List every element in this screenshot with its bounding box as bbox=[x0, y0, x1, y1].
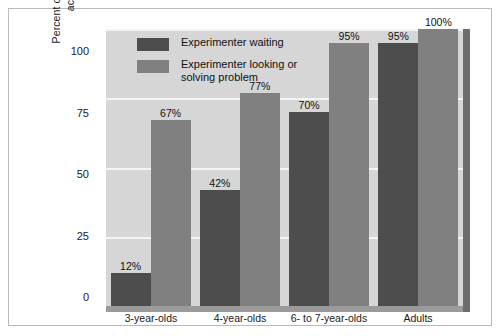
y-tick-label-75: 75 bbox=[61, 108, 89, 119]
legend-swatch-icon-series-0 bbox=[137, 38, 169, 51]
x-tick-label-3-year-olds: 3-year-olds bbox=[106, 312, 196, 324]
bar-value-label-4-year-olds-waiting: 42% bbox=[200, 178, 240, 189]
bar-value-label-adults-looking: 100% bbox=[418, 17, 458, 28]
plot-surface: 12% 67% 42% 77% 70% 95% 95% 100% Experim… bbox=[106, 29, 463, 306]
legend-swatch-icon-series-1 bbox=[137, 60, 169, 73]
bar-value-label-6-to-7-year-olds-waiting: 70% bbox=[289, 100, 329, 111]
legend-label-series-0: Experimenter waiting bbox=[181, 36, 284, 49]
y-axis-title-line2: activity to experimenter bbox=[63, 0, 77, 71]
y-axis-title: Percent of children attributing mental a… bbox=[49, 0, 81, 71]
bar-value-label-3-year-olds-waiting: 12% bbox=[111, 261, 151, 272]
figure-frame: Percent of children attributing mental a… bbox=[8, 8, 492, 326]
y-tick-label-100: 100 bbox=[61, 46, 89, 57]
bar-value-label-3-year-olds-looking: 67% bbox=[151, 108, 191, 119]
plot-right-edge bbox=[463, 29, 470, 312]
legend-label-series-1-line2: solving problem bbox=[181, 71, 258, 84]
bar-3-year-olds-experimenter-looking bbox=[151, 120, 191, 306]
y-axis-title-line1: Percent of children attributing mental bbox=[49, 0, 63, 71]
bar-4-year-olds-experimenter-waiting bbox=[200, 190, 240, 306]
bar-value-label-adults-waiting: 95% bbox=[378, 31, 418, 42]
bar-6-to-7-year-olds-experimenter-looking bbox=[329, 43, 369, 306]
y-tick-label-25: 25 bbox=[61, 231, 89, 242]
bar-6-to-7-year-olds-experimenter-waiting bbox=[289, 112, 329, 306]
y-tick-label-0: 0 bbox=[61, 292, 89, 303]
bar-value-label-6-to-7-year-olds-looking: 95% bbox=[329, 31, 369, 42]
bar-4-year-olds-experimenter-looking bbox=[240, 93, 280, 306]
bar-adults-experimenter-looking bbox=[418, 29, 458, 306]
bar-adults-experimenter-waiting bbox=[378, 43, 418, 306]
bar-3-year-olds-experimenter-waiting bbox=[111, 273, 151, 306]
y-tick-label-50: 50 bbox=[61, 169, 89, 180]
x-tick-label-adults: Adults bbox=[373, 312, 463, 324]
plot-area: 12% 67% 42% 77% 70% 95% 95% 100% Experim… bbox=[106, 29, 470, 306]
x-tick-label-6-to-7-year-olds: 6- to 7-year-olds bbox=[284, 312, 374, 324]
legend-label-series-1-line1: Experimenter looking or bbox=[181, 58, 297, 71]
x-tick-label-4-year-olds: 4-year-olds bbox=[195, 312, 285, 324]
